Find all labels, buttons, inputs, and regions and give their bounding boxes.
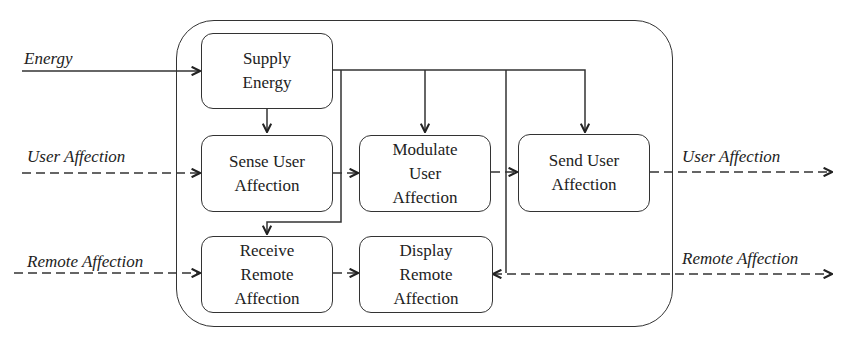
user-affection-output-label: User Affection <box>682 147 780 167</box>
send-user-affection-block: Send User Affection <box>518 134 650 212</box>
energy-input-label: Energy <box>24 49 72 69</box>
modulate-user-affection-block: Modulate User Affection <box>359 135 491 212</box>
sense-user-affection-label: Sense User Affection <box>227 150 307 198</box>
send-user-affection-label: Send User Affection <box>534 149 634 197</box>
supply-energy-block: Supply Energy <box>201 33 333 109</box>
energy-bus <box>333 70 585 132</box>
receive-remote-affection-block: Receive Remote Affection <box>201 236 333 313</box>
user-affection-input-label: User Affection <box>27 147 125 167</box>
modulate-user-affection-label: Modulate User Affection <box>385 138 465 210</box>
sense-user-affection-block: Sense User Affection <box>201 135 333 212</box>
remote-affection-input-label: Remote Affection <box>27 252 143 272</box>
display-remote-affection-block: Display Remote Affection <box>359 236 493 313</box>
remote-affection-output-label: Remote Affection <box>682 249 798 269</box>
supply-energy-label: Supply Energy <box>227 47 307 95</box>
display-remote-affection-label: Display Remote Affection <box>386 239 466 311</box>
receive-remote-affection-label: Receive Remote Affection <box>227 239 307 311</box>
